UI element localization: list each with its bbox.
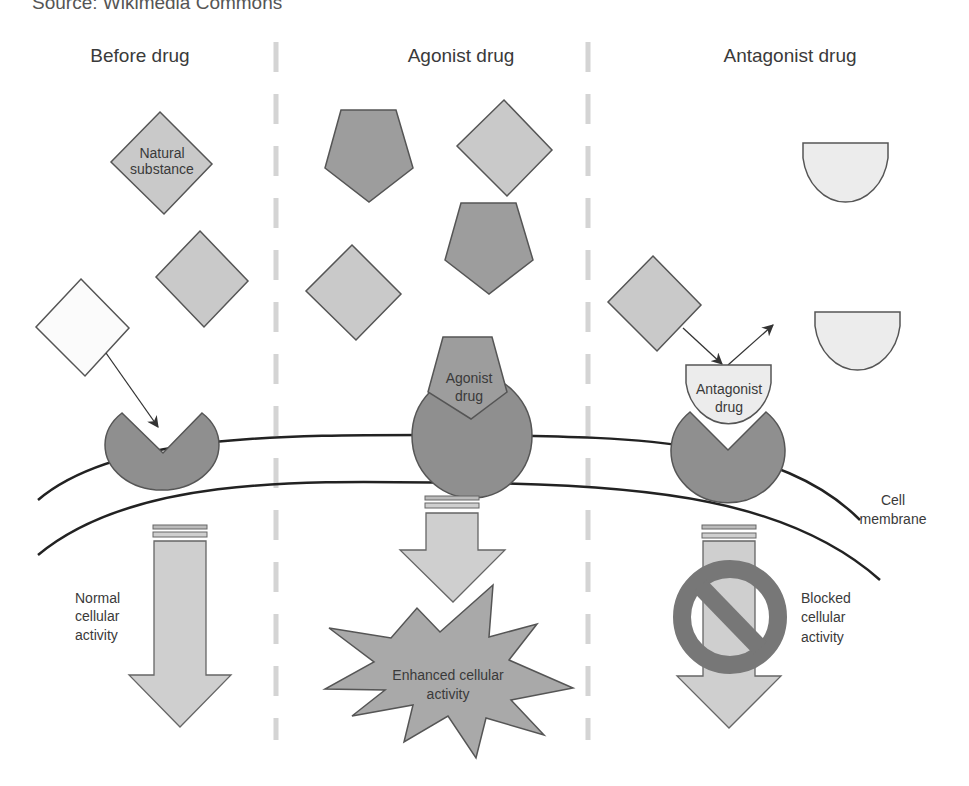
normal-activity-label-1: Normal (75, 590, 120, 606)
panel-title-before: Before drug (90, 45, 189, 66)
natural-substance-agonist-1 (457, 100, 552, 196)
normal-activity-label-3: activity (75, 627, 118, 643)
natural-substance-agonist-2 (306, 245, 401, 340)
source-caption: Source: Wikimedia Commons (32, 0, 282, 13)
binding-arrow-before (106, 353, 158, 427)
natural-substance-antagonist (608, 256, 701, 351)
bound-antagonist-drug: Antagonist drug (686, 365, 771, 424)
panel-title-agonist: Agonist drug (408, 45, 515, 66)
svg-text:Agonist: Agonist (446, 370, 493, 386)
blocked-activity-label-2: cellular (801, 609, 846, 625)
svg-text:drug: drug (455, 388, 483, 404)
cell-membrane-label-1: Cell (881, 492, 905, 508)
antagonist-drug-1 (803, 143, 888, 202)
antagonist-drug-2 (815, 312, 900, 370)
svg-text:substance: substance (130, 161, 194, 177)
normal-activity-label-2: cellular (75, 608, 120, 624)
svg-text:Natural: Natural (139, 145, 184, 161)
natural-substance-2 (156, 231, 248, 327)
svg-text:Antagonist: Antagonist (696, 381, 762, 397)
cell-membrane-label-2: membrane (860, 511, 927, 527)
blocked-approach-arrow (683, 328, 722, 364)
drug-receptor-diagram: Source: Wikimedia Commons Before drug Ag… (0, 0, 969, 786)
enhanced-activity-arrow (400, 496, 505, 602)
svg-text:drug: drug (715, 399, 743, 415)
blocked-activity-label-1: Blocked (801, 590, 851, 606)
agonist-drug-1 (325, 110, 413, 202)
receptor-antagonist (671, 412, 785, 503)
normal-activity-arrow (129, 525, 231, 727)
enhanced-activity-label-1: Enhanced cellular (392, 667, 504, 683)
receptor-before (105, 413, 219, 490)
deflection-arrow (728, 325, 773, 365)
enhanced-activity-label-2: activity (427, 686, 470, 702)
natural-substance-labeled: Natural substance (111, 112, 212, 214)
panel-title-antagonist: Antagonist drug (723, 45, 856, 66)
blocked-activity-label-3: activity (801, 629, 844, 645)
agonist-drug-2 (445, 203, 533, 294)
natural-substance-approaching (36, 279, 129, 376)
